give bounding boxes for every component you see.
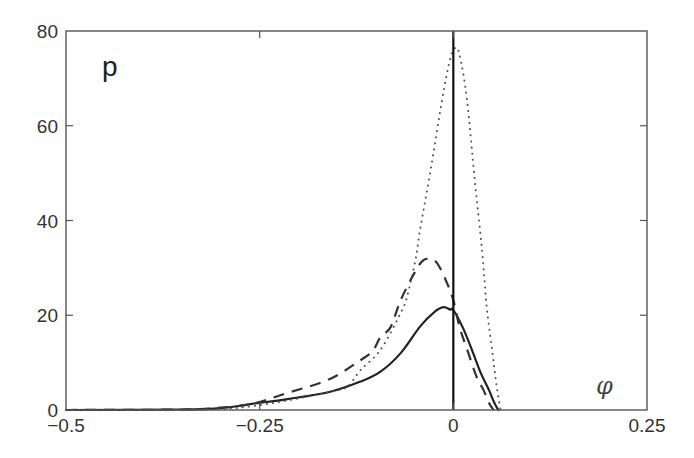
y-tick-label: 20 — [37, 305, 58, 326]
y-axis: 020406080 — [37, 21, 647, 421]
series-dashed-line — [66, 259, 494, 410]
x-tick-label: 0.25 — [629, 415, 666, 436]
series-dotted-line — [66, 47, 501, 410]
curves-layer — [66, 47, 501, 410]
chart: 020406080 −0.5−0.2500.25 p φ — [0, 0, 694, 458]
plot-frame — [66, 31, 647, 410]
x-tick-label: −0.25 — [236, 415, 284, 436]
y-tick-label: 80 — [37, 21, 58, 42]
panel-label: p — [102, 51, 118, 82]
y-tick-label: 40 — [37, 211, 58, 232]
x-tick-label: −0.5 — [47, 415, 85, 436]
x-tick-label: 0 — [448, 415, 459, 436]
x-axis-label: φ — [596, 372, 613, 400]
y-tick-label: 60 — [37, 116, 58, 137]
